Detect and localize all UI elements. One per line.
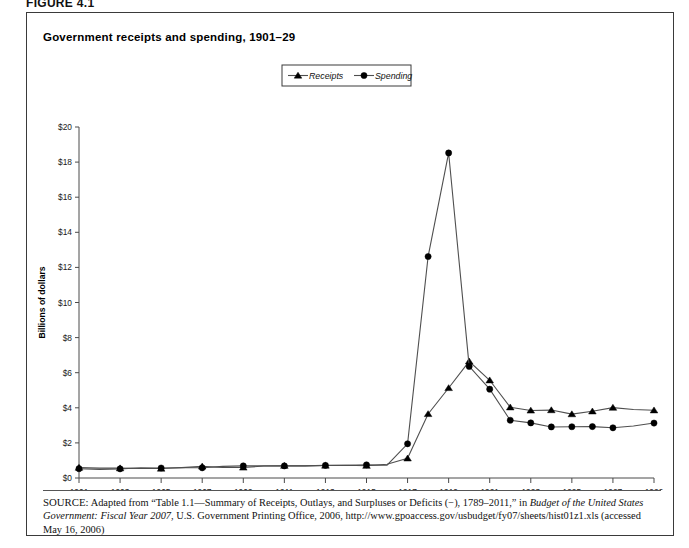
data-point-marker (76, 466, 82, 472)
chart-plot-area: $0$2$4$6$8$10$12$14$16$18$20190119031905… (27, 55, 673, 490)
legend-marker-circle-icon (361, 72, 367, 78)
line-chart: $0$2$4$6$8$10$12$14$16$18$20190119031905… (27, 55, 673, 490)
data-point-marker (158, 465, 164, 471)
data-point-marker (425, 253, 431, 259)
data-point-marker (446, 150, 452, 156)
y-axis-tick-label: $20 (58, 122, 72, 132)
data-point-marker (610, 425, 616, 431)
chart-title: Government receipts and spending, 1901–2… (43, 31, 295, 43)
data-point-marker (404, 441, 410, 447)
data-point-marker (487, 386, 493, 392)
data-point-marker (117, 466, 123, 472)
y-axis-tick-label: $6 (63, 368, 73, 378)
data-point-marker (507, 417, 513, 423)
y-axis-title: Billions of dollars (37, 266, 47, 338)
data-point-marker (609, 404, 617, 410)
data-point-marker (569, 424, 575, 430)
y-axis-tick-label: $14 (58, 227, 72, 237)
legend-label-spending: Spending (375, 71, 412, 81)
data-point-marker (240, 463, 246, 469)
data-point-marker (506, 404, 514, 410)
data-point-marker (651, 420, 657, 426)
data-point-marker (199, 465, 205, 471)
figure-box: Government receipts and spending, 1901–2… (26, 12, 674, 536)
data-point-marker (322, 462, 328, 468)
source-note: SOURCE: Adapted from “Table 1.1—Summary … (43, 490, 661, 536)
data-point-marker (445, 385, 453, 391)
data-point-marker (528, 420, 534, 426)
y-axis-tick-label: $8 (63, 333, 73, 343)
figure-label: FIGURE 4.1 (26, 0, 94, 10)
data-point-marker (404, 455, 412, 461)
data-point-marker (363, 462, 369, 468)
y-axis-tick-label: $10 (58, 298, 72, 308)
series-line-receipts (79, 361, 654, 468)
series-line-spending (79, 153, 654, 469)
source-label: SOURCE: (43, 496, 89, 508)
data-point-marker (424, 411, 432, 417)
data-point-marker (589, 423, 595, 429)
data-point-marker (466, 363, 472, 369)
y-axis-tick-label: $4 (63, 403, 73, 413)
legend-label-receipts: Receipts (309, 71, 344, 81)
y-axis-tick-label: $12 (58, 262, 72, 272)
source-text-part-1: Adapted from “Table 1.1—Summary of Recei… (89, 497, 530, 508)
data-point-marker (548, 424, 554, 430)
y-axis-tick-label: $2 (63, 438, 73, 448)
data-point-marker (281, 463, 287, 469)
y-axis-tick-label: $16 (58, 192, 72, 202)
y-axis-tick-label: $0 (63, 473, 73, 483)
y-axis-tick-label: $18 (58, 157, 72, 167)
